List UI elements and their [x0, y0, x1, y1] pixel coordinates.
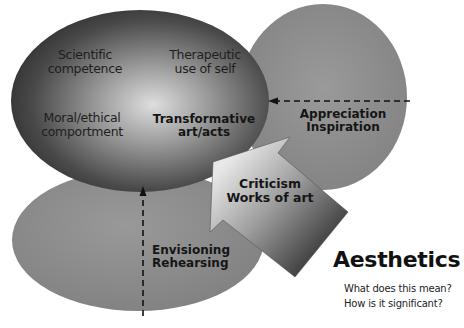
label-line: comportment: [33, 125, 131, 139]
question-line: What does this mean?: [344, 282, 452, 297]
label-line: Criticism: [220, 177, 320, 191]
label-line: competence: [40, 62, 130, 76]
questions: What does this mean? How is it significa…: [344, 282, 452, 311]
label-line: Scientific: [40, 48, 130, 62]
label-line: Appreciation: [296, 108, 390, 121]
label-moral-ethical-comportment: Moral/ethical comportment: [33, 111, 131, 139]
label-line: use of self: [160, 62, 250, 76]
diagram-title: Aesthetics: [333, 247, 460, 272]
label-therapeutic-use-of-self: Therapeutic use of self: [160, 48, 250, 76]
label-line: art/acts: [146, 126, 262, 139]
label-criticism-works-of-art: Criticism Works of art: [220, 177, 320, 205]
label-line: Transformative: [146, 113, 262, 126]
label-scientific-competence: Scientific competence: [40, 48, 130, 76]
question-line: How is it significant?: [344, 297, 452, 312]
label-appreciation-inspiration: Appreciation Inspiration: [296, 108, 390, 135]
label-line: Moral/ethical: [33, 111, 131, 125]
label-envisioning-rehearsing: Envisioning Rehearsing: [152, 244, 232, 271]
label-line: Works of art: [220, 191, 320, 205]
label-line: Envisioning: [152, 244, 232, 257]
label-transformative-art-acts: Transformative art/acts: [146, 113, 262, 140]
label-line: Therapeutic: [160, 48, 250, 62]
label-line: Inspiration: [296, 121, 390, 134]
label-line: Rehearsing: [152, 257, 232, 270]
